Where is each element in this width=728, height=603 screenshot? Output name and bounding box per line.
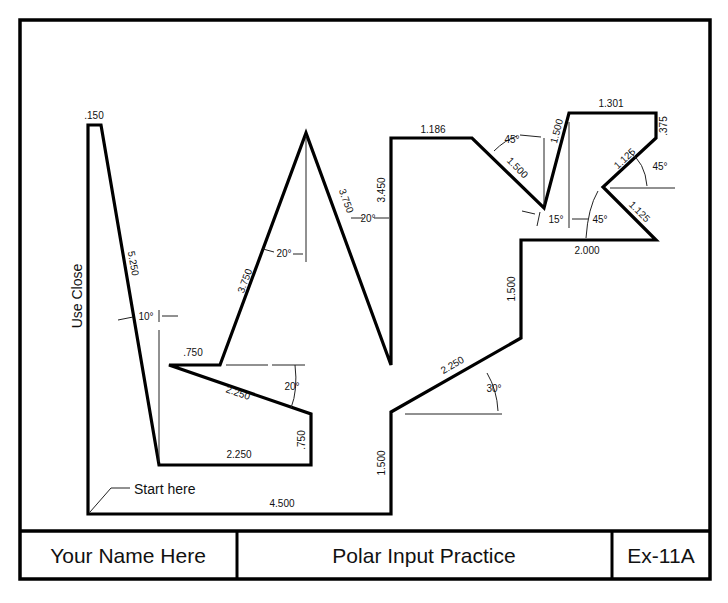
dim-4500: 4.500 <box>269 498 294 509</box>
dim-1500-diagonal: 1.500 <box>505 155 531 181</box>
dim-3750-right: 3.750 <box>337 187 356 215</box>
dim-1500-mid: 1.500 <box>506 276 517 301</box>
dim-1186: 1.186 <box>420 124 445 135</box>
angle-45-top: 45° <box>504 134 519 145</box>
title-block-title: Polar Input Practice <box>332 544 515 567</box>
dim-750-right: .750 <box>296 430 307 450</box>
note-use-close: Use Close <box>69 264 85 329</box>
angle-10: 10° <box>138 311 153 322</box>
drawing-sheet: Your Name Here Polar Input Practice Ex-1… <box>0 0 728 603</box>
dim-3450: 3.450 <box>376 177 387 202</box>
dim-2000: 2.000 <box>574 245 599 256</box>
angle-20-incline: 20° <box>284 381 299 392</box>
dim-1301: 1.301 <box>598 98 623 109</box>
dim-1125-lower: 1.125 <box>627 199 653 225</box>
dim-5250: 5.250 <box>126 250 141 277</box>
dim-2250-incline: 2.250 <box>225 383 253 402</box>
angle-45-right: 45° <box>652 161 667 172</box>
angle-20-apex: 20° <box>276 248 291 259</box>
note-start-here: Start here <box>134 481 196 497</box>
dim-2250-bottom: 2.250 <box>226 449 251 460</box>
angle-20-right: 20° <box>360 213 375 224</box>
title-block-name: Your Name Here <box>50 544 206 567</box>
angle-45-lower: 45° <box>592 214 607 225</box>
dim-150: .150 <box>84 110 104 121</box>
angle-15: 15° <box>548 214 563 225</box>
dim-375: .375 <box>658 116 669 136</box>
title-block-exercise: Ex-11A <box>627 544 694 567</box>
dim-750-top: .750 <box>183 347 203 358</box>
dim-1500-bottom: 1.500 <box>376 450 387 475</box>
polar-profile-shape <box>88 113 656 514</box>
angle-30: 30° <box>486 383 501 394</box>
